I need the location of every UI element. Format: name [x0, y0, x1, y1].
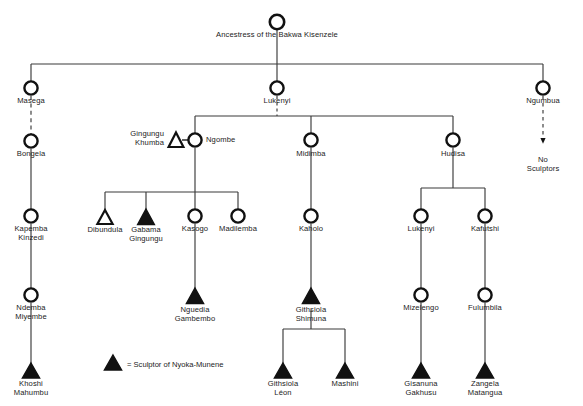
label-bongela: Bongela	[17, 150, 46, 159]
genealogy-tree-graphics	[0, 0, 583, 406]
label-masega: Masega	[17, 97, 45, 106]
node-gabama-gingungu[interactable]	[138, 209, 155, 225]
label-ndemba-miyembe: Ndemba Miyembe	[15, 304, 47, 321]
label-kaholo: Kaholo	[299, 225, 323, 234]
label-githsiola-shimuna: Githsiola Shimuna	[296, 306, 327, 323]
node-kaholo[interactable]	[304, 209, 317, 222]
node-dibundula[interactable]	[97, 210, 112, 224]
node-mizelengo[interactable]	[414, 288, 427, 301]
node-shape-layer	[22, 15, 549, 378]
node-kasogo[interactable]	[188, 209, 201, 222]
node-nguedia-gambembo[interactable]	[186, 288, 203, 304]
node-midimba[interactable]	[304, 133, 317, 146]
legend-label: = Sculptor of Nyoka-Munene	[127, 360, 223, 369]
label-ancestress: Ancestress of the Bakwa Kisenzele	[216, 31, 338, 40]
label-hudisa: Hudisa	[441, 150, 465, 159]
label-khoshi-mahumbu: Khoshi Mahumbu	[14, 380, 48, 397]
node-zangela-matangua[interactable]	[476, 363, 493, 378]
node-lukenyi-top[interactable]	[270, 81, 283, 94]
node-gingungu-khumba[interactable]	[169, 133, 184, 148]
label-kasogo: Kasogo	[182, 225, 208, 234]
label-dibundula: Dibundula	[87, 226, 122, 235]
label-lukenyi-b: Lukenyi	[408, 225, 435, 234]
edge-layer	[31, 30, 543, 366]
node-ngombe[interactable]	[188, 133, 201, 146]
node-khoshi-mahumbu[interactable]	[22, 363, 39, 378]
label-midimba: Midimba	[296, 150, 325, 159]
node-masega[interactable]	[24, 81, 37, 94]
node-githsiola-leon[interactable]	[274, 363, 291, 378]
label-gingungu-khumba: Gingungu Khumba	[130, 130, 164, 147]
label-lukenyi-top: Lukenyi	[264, 97, 291, 106]
label-fulumbila: Fulumbila	[468, 304, 502, 313]
label-mizelengo: Mizelengo	[403, 304, 439, 313]
node-kapemba-kinzedi[interactable]	[24, 209, 37, 222]
node-ancestress[interactable]	[270, 15, 284, 29]
legend-sculptor-triangle-icon	[104, 355, 121, 370]
node-gisanuna-gakhusu[interactable]	[412, 363, 429, 378]
label-nguedia-gambembo: Nguedia Gambembo	[175, 306, 215, 323]
label-madilemba: Madilemba	[219, 225, 257, 234]
label-githsiola-leon: Githsiola Léon	[268, 380, 298, 397]
node-mashini[interactable]	[336, 363, 353, 378]
label-kapemba-kinzedi: Kapemba Kinzedi	[14, 225, 47, 242]
label-ngombe: Ngombe	[206, 136, 235, 145]
node-lukenyi-b[interactable]	[414, 209, 427, 222]
label-mashini: Mashini	[332, 380, 359, 389]
label-ngumbua: Ngumbua	[526, 97, 560, 106]
node-fulumbila[interactable]	[478, 288, 491, 301]
node-ngumbua[interactable]	[536, 81, 549, 94]
node-kafutshi[interactable]	[478, 209, 491, 222]
node-ndemba-miyembe[interactable]	[24, 288, 37, 301]
node-bongela[interactable]	[24, 134, 37, 147]
label-zangela-matangua: Zangela Matangua	[468, 380, 503, 397]
node-hudisa[interactable]	[446, 133, 459, 146]
label-no-sculptors: No Sculptors	[523, 156, 563, 173]
label-gisanuna-gakhusu: Gisanuna Gakhusu	[404, 380, 437, 397]
label-kafutshi: Kafutshi	[471, 225, 499, 234]
genealogy-figure: Ancestress of the Bakwa Kisenzele Masega…	[0, 0, 583, 406]
node-madilemba[interactable]	[231, 209, 244, 222]
node-githsiola-shimuna[interactable]	[302, 288, 319, 304]
label-gabama-gingungu: Gabama Gingungu	[129, 226, 163, 243]
